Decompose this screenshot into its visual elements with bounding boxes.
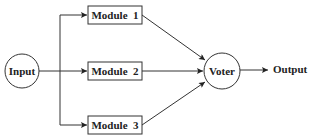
module3-label: Module 3 [91,119,139,131]
module1-node: Module 1 [88,6,142,24]
voter-node: Voter [204,53,240,89]
fanout-connectors [39,15,87,125]
module3-node: Module 3 [88,116,142,134]
voter-label: Voter [209,65,235,77]
fanin-connectors [142,15,205,125]
module2-label: Module 2 [91,65,139,77]
input-node: Input [5,54,39,88]
tmr-diagram: Input Module 1 Module 2 Module 3 Voter O… [0,0,311,139]
arrow-module3-to-voter [142,82,205,125]
output-node: Output [240,63,308,75]
arrow-module1-to-voter [142,15,205,60]
module1-label: Module 1 [91,9,138,21]
output-label: Output [273,63,308,75]
input-label: Input [9,65,36,77]
module2-node: Module 2 [88,62,142,80]
